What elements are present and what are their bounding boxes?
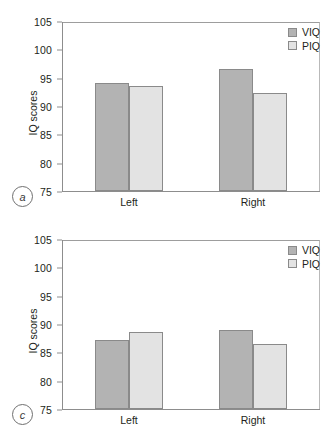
y-axis-label-c: IQ scores [27, 309, 39, 354]
y-tick-label: 90 [40, 319, 52, 331]
y-tick-label: 95 [40, 291, 52, 303]
bar-piq-left-a [129, 86, 163, 191]
y-tick-label: 95 [40, 73, 52, 85]
x-tick-label-right-a: Right [241, 196, 266, 208]
bars-area-c [63, 241, 319, 409]
x-tick-label-left-c: Left [120, 414, 138, 426]
bar-piq-right-a [253, 93, 287, 191]
y-tick-mark [57, 192, 62, 193]
legend-item-piq-c: PIQ [288, 259, 320, 270]
y-tick-mark [57, 50, 62, 51]
legend-swatch-viq-icon [288, 28, 297, 37]
y-tick-mark [57, 22, 62, 23]
y-tick-label: 80 [40, 376, 52, 388]
panel-tag-a: a [12, 186, 33, 207]
y-tick-label: 85 [40, 129, 52, 141]
legend-a: VIQ PIQ [288, 27, 320, 51]
legend-swatch-piq-icon [288, 41, 297, 50]
legend-label-piq: PIQ [302, 259, 320, 270]
bar-piq-left-c [129, 332, 163, 409]
y-tick-label: 85 [40, 347, 52, 359]
y-tick-label: 75 [40, 404, 52, 416]
x-axis-line-a [62, 191, 320, 192]
y-tick-mark [57, 135, 62, 136]
bar-piq-right-c [253, 344, 287, 409]
y-tick-mark [57, 296, 62, 297]
legend-item-piq-a: PIQ [288, 41, 320, 52]
figure-sheet: IQ scores 105 100 95 90 85 80 [0, 0, 332, 436]
panel-tag-c: c [12, 404, 33, 425]
y-tick-mark [57, 353, 62, 354]
legend-c: VIQ PIQ [288, 245, 320, 269]
legend-item-viq-c: VIQ [288, 245, 320, 256]
y-tick-mark [57, 325, 62, 326]
y-tick-mark [57, 78, 62, 79]
y-tick-mark [57, 410, 62, 411]
legend-swatch-viq-icon [288, 246, 297, 255]
y-tick-label: 80 [40, 158, 52, 170]
bar-viq-right-a [219, 69, 253, 191]
y-tick-label: 100 [34, 44, 52, 56]
y-tick-mark [57, 163, 62, 164]
bars-area-a [63, 23, 319, 191]
y-axis-label-a: IQ scores [27, 91, 39, 136]
x-tick-label-left-a: Left [120, 196, 138, 208]
y-tick-label: 75 [40, 186, 52, 198]
legend-item-viq-a: VIQ [288, 27, 320, 38]
legend-swatch-piq-icon [288, 259, 297, 268]
x-axis-line-c [62, 409, 320, 410]
y-tick-mark [57, 107, 62, 108]
x-tick-label-right-c: Right [241, 414, 266, 426]
legend-label-piq: PIQ [302, 41, 320, 52]
y-tick-label: 105 [34, 16, 52, 28]
y-tick-label: 90 [40, 101, 52, 113]
y-tick-mark [57, 268, 62, 269]
legend-label-viq: VIQ [302, 245, 320, 256]
chart-panel-a: IQ scores 105 100 95 90 85 80 [0, 0, 332, 218]
y-tick-label: 105 [34, 234, 52, 246]
bar-viq-right-c [219, 330, 253, 409]
y-tick-mark [57, 381, 62, 382]
chart-panel-c: IQ scores 105 100 95 90 85 80 [0, 218, 332, 436]
y-tick-label: 100 [34, 262, 52, 274]
bar-viq-left-a [95, 83, 129, 191]
legend-label-viq: VIQ [302, 27, 320, 38]
bar-viq-left-c [95, 340, 129, 409]
y-tick-mark [57, 240, 62, 241]
